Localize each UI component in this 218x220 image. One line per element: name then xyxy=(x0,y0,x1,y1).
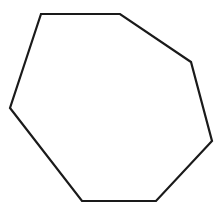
diagram-canvas xyxy=(0,0,218,220)
background xyxy=(0,0,218,220)
